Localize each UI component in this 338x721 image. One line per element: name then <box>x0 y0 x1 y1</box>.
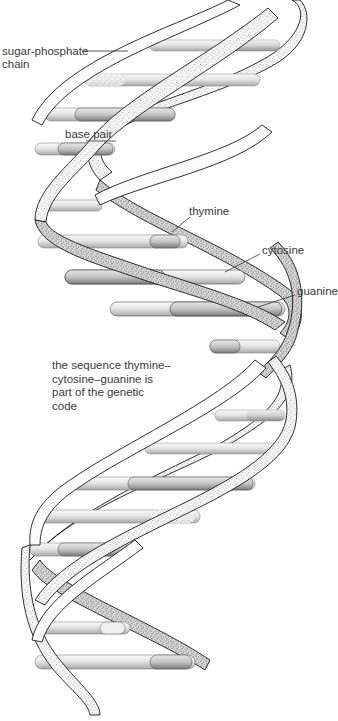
label-cytosine: cytosine <box>262 244 304 257</box>
caption-genetic-code: the sequence thymine– cytosine–guanine i… <box>52 359 172 413</box>
base-pair-rod <box>210 340 280 353</box>
caption-line: part of the genetic <box>52 386 172 400</box>
label-base-pair: base pair <box>65 128 112 141</box>
caption-line: code <box>52 400 172 414</box>
label-sugar-phosphate-line2: chain <box>2 58 88 71</box>
caption-line: the sequence thymine– <box>52 359 172 373</box>
base-pair-rod <box>145 443 280 454</box>
label-sugar-phosphate-line1: sugar-phosphate <box>2 45 88 58</box>
label-thymine: thymine <box>189 205 229 218</box>
base-pair-rod <box>215 410 285 421</box>
label-sugar-phosphate-chain: sugar-phosphate chain <box>2 45 88 71</box>
caption-line: cytosine–guanine is <box>52 373 172 387</box>
label-guanine: guanine <box>297 285 338 298</box>
